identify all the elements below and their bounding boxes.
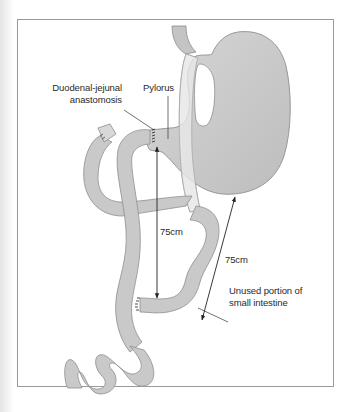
anastomosis-leader-line [124,110,154,130]
alimentary-limb [116,130,150,352]
label-line: anastomosis [44,94,122,106]
label-measure-outer: 75cm [225,254,248,266]
label-duodenal-jejunal: Duodenal-jejunal anastomosis [44,82,122,106]
label-line: small intestine [229,297,302,309]
stomach [147,32,290,195]
label-pylorus: Pylorus [143,82,174,94]
anastomosis-sutures-lower [135,298,140,310]
label-unused-portion: Unused portion of small intestine [229,285,302,309]
anatomy-illustration [0,0,345,412]
label-measure-inner: 75cm [160,226,183,238]
unused-small-intestine [140,206,219,313]
label-line: Unused portion of [229,285,302,297]
common-channel-coils [65,346,154,394]
unused-leader-line [198,308,228,322]
esophagus [172,26,196,54]
label-line: Duodenal-jejunal [44,82,122,94]
diagram-page: Duodenal-jejunal anastomosis Pylorus 75c… [0,0,345,412]
